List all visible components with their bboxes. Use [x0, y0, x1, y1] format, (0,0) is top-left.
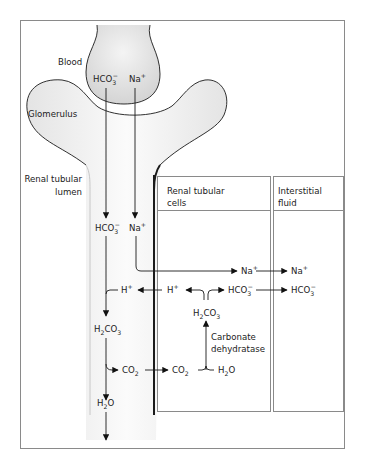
cell-carbonic-acid: H2CO3	[193, 308, 220, 320]
label-interstitial-1: Interstitial	[278, 186, 322, 196]
enzyme-label-2: dehydratase	[211, 344, 265, 354]
lumen-bicarbonate: HCO3−	[95, 221, 120, 235]
blood-bicarbonate: HCO3−	[93, 72, 118, 86]
renal-tubular-cells-box	[158, 177, 271, 412]
blood-capillary	[86, 25, 160, 104]
interstitial-bicarbonate: HCO3−	[291, 283, 316, 297]
renal-diagram: Blood Glomerulus Renal tubular lumen Ren…	[0, 0, 366, 463]
cell-bicarbonate: HCO3−	[228, 283, 253, 297]
label-lumen-2: lumen	[55, 187, 82, 197]
enzyme-label-1: Carbonate	[211, 332, 256, 342]
diagram-root: Blood Glomerulus Renal tubular lumen Ren…	[0, 0, 366, 463]
lumen-carbonic-acid: H2CO3	[94, 324, 121, 336]
label-cells-2: cells	[167, 198, 187, 208]
label-glomerulus: Glomerulus	[28, 109, 78, 119]
label-interstitial-2: fluid	[278, 198, 297, 208]
label-lumen-1: Renal tubular	[24, 174, 82, 184]
label-cells-1: Renal tubular	[167, 186, 225, 196]
label-blood: Blood	[58, 57, 82, 67]
